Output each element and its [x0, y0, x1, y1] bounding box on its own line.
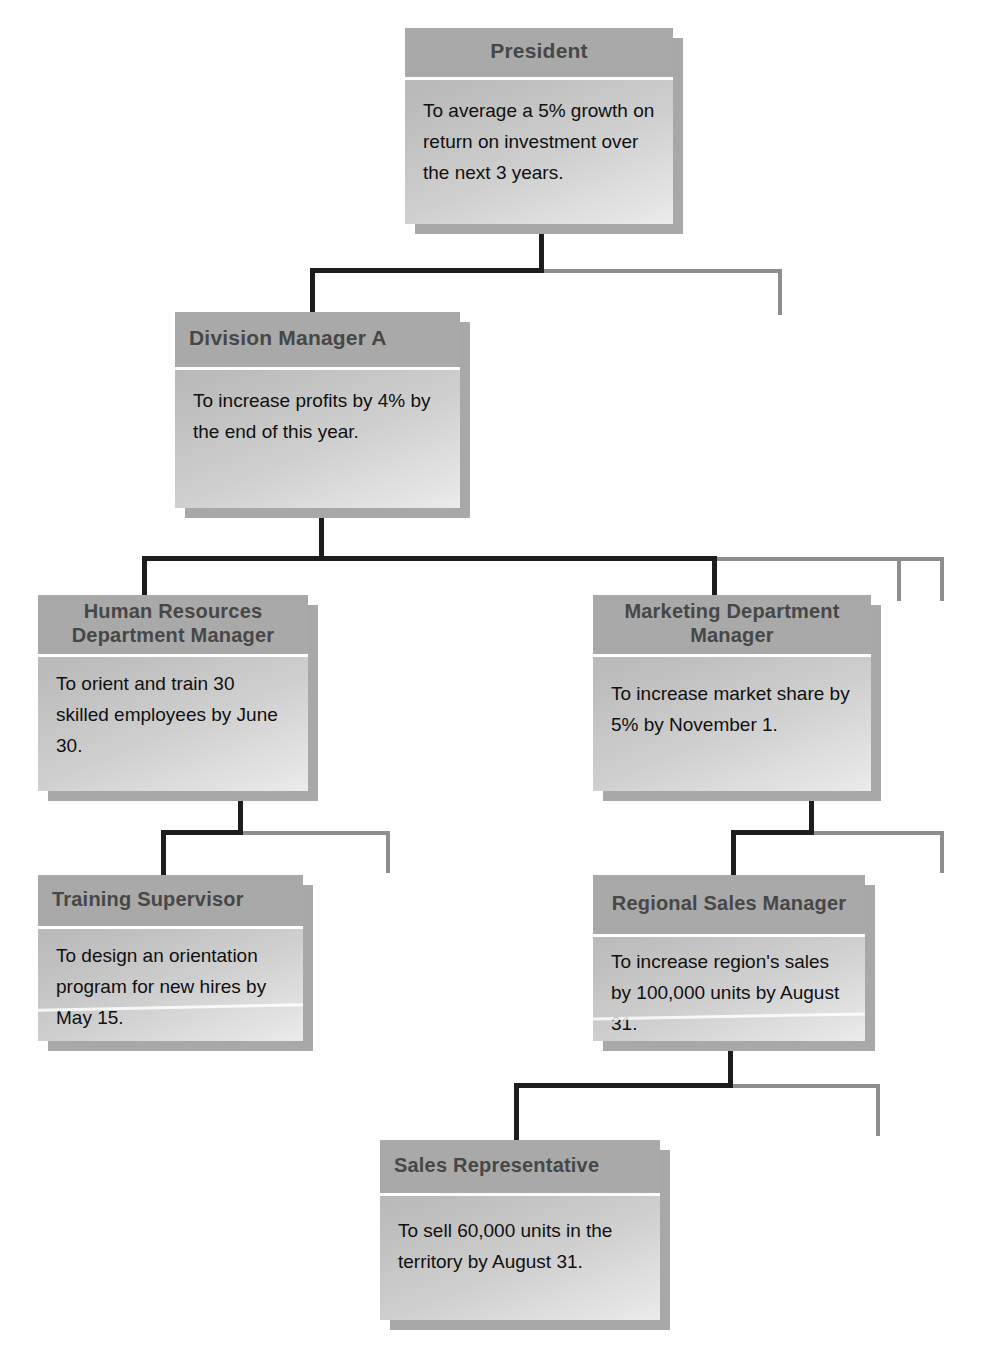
node-title-sales-representative: Sales Representative — [380, 1140, 660, 1196]
connector-training-drop — [161, 830, 166, 878]
connector-regional-stub-right — [876, 1084, 880, 1136]
org-chart-canvas: President To average a 5% growth on retu… — [0, 0, 993, 1369]
connector-marketing-drop — [712, 556, 717, 598]
org-node-president[interactable]: President To average a 5% growth on retu… — [405, 28, 673, 224]
node-objective-president: To average a 5% growth on return on inve… — [405, 80, 673, 224]
connector-hr-bus-right — [238, 831, 390, 835]
node-objective-division-manager-a: To increase profits by 4% by the end of … — [175, 370, 460, 508]
node-title-marketing-department-manager: Marketing Department Manager — [593, 595, 871, 657]
connector-division-a-stub-right-2 — [940, 557, 944, 601]
connector-division-a-bus-right — [712, 557, 944, 561]
connector-regional-bus-right — [728, 1084, 880, 1088]
node-title-division-manager-a: Division Manager A — [175, 312, 460, 370]
node-objective-training-supervisor: To design an orientation program for new… — [38, 929, 303, 1043]
connector-regional-bus-left — [514, 1083, 733, 1088]
connector-president-bus-left — [310, 268, 544, 273]
org-node-regional-sales-manager[interactable]: Regional Sales Manager To increase regio… — [593, 875, 865, 1041]
node-card: Sales Representative To sell 60,000 unit… — [380, 1140, 660, 1320]
node-objective-human-resources-department-manager: To orient and train 30 skilled employees… — [38, 657, 308, 791]
org-node-human-resources-department-manager[interactable]: Human Resources Department Manager To or… — [38, 595, 308, 791]
connector-division-a-drop — [310, 268, 315, 316]
node-title-regional-sales-manager: Regional Sales Manager — [593, 875, 865, 937]
connector-president-bus-right — [539, 269, 782, 273]
node-title-training-supervisor: Training Supervisor — [38, 875, 303, 929]
connector-hr-stub-right — [386, 831, 390, 873]
org-node-training-supervisor[interactable]: Training Supervisor To design an orienta… — [38, 875, 303, 1041]
node-card: Marketing Department Manager To increase… — [593, 595, 871, 791]
node-card: Regional Sales Manager To increase regio… — [593, 875, 865, 1041]
node-title-human-resources-department-manager: Human Resources Department Manager — [38, 595, 308, 657]
connector-salesrep-drop — [514, 1083, 519, 1141]
node-card: Division Manager A To increase profits b… — [175, 312, 460, 508]
connector-hr-drop — [142, 556, 147, 598]
connector-division-a-bus — [142, 556, 717, 561]
org-node-marketing-department-manager[interactable]: Marketing Department Manager To increase… — [593, 595, 871, 791]
connector-hr-bus-left — [161, 830, 243, 835]
node-card: Human Resources Department Manager To or… — [38, 595, 308, 791]
node-card: President To average a 5% growth on retu… — [405, 28, 673, 224]
node-title-president: President — [405, 28, 673, 80]
connector-marketing-stub-right — [940, 831, 944, 873]
org-node-division-manager-a[interactable]: Division Manager A To increase profits b… — [175, 312, 460, 508]
node-objective-marketing-department-manager: To increase market share by 5% by Novemb… — [593, 657, 871, 791]
node-card: Training Supervisor To design an orienta… — [38, 875, 303, 1041]
connector-marketing-bus-right — [809, 831, 944, 835]
connector-division-a-stub-right-1 — [897, 557, 901, 601]
connector-marketing-bus-left — [731, 830, 814, 835]
node-objective-sales-representative: To sell 60,000 units in the territory by… — [380, 1196, 660, 1320]
connector-president-stub-right — [778, 269, 782, 315]
node-objective-regional-sales-manager: To increase region's sales by 100,000 un… — [593, 937, 865, 1049]
org-node-sales-representative[interactable]: Sales Representative To sell 60,000 unit… — [380, 1140, 660, 1320]
connector-regional-drop — [731, 830, 736, 878]
